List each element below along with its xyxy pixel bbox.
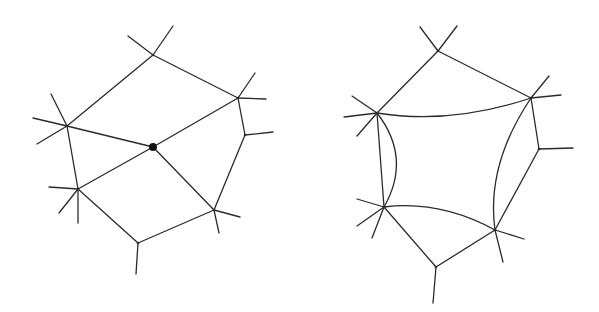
vertex-point <box>137 242 140 245</box>
half-edge-stub <box>344 113 377 117</box>
vertex-point <box>237 97 240 100</box>
half-edge-stub <box>59 189 78 213</box>
graph-edge <box>214 135 245 210</box>
vertex-point <box>376 112 379 115</box>
vertex-point <box>213 209 216 212</box>
vertex-point <box>77 188 80 191</box>
half-edge-stub <box>357 199 384 207</box>
half-edge-stub <box>433 267 436 303</box>
vertex-point <box>494 229 497 232</box>
graph-edge <box>377 113 384 207</box>
half-edge-stub <box>245 132 273 135</box>
vertex-point <box>66 125 69 128</box>
graph-edge <box>67 126 78 189</box>
half-edge-stub <box>153 26 173 55</box>
vertex-point <box>383 206 386 209</box>
graph-edge <box>438 51 531 98</box>
graph-edge <box>78 189 138 243</box>
graph-edge <box>238 98 245 135</box>
graph-edge <box>153 147 214 210</box>
graph-edge <box>436 230 495 267</box>
graph-edge <box>153 98 238 147</box>
graph-edge <box>531 98 539 149</box>
vertex-point <box>435 266 438 269</box>
half-edge-stub <box>438 26 457 51</box>
half-edge-stub <box>352 96 377 113</box>
half-edge-stub <box>214 210 240 217</box>
center-vertex-dot <box>149 143 157 151</box>
half-edge-stub <box>128 36 153 55</box>
vertex-point <box>437 50 440 53</box>
graph-edge <box>153 55 238 98</box>
half-edge-stub <box>420 27 438 51</box>
half-edge-stub <box>531 95 561 98</box>
vertex-point <box>530 97 533 100</box>
graph-edge <box>377 51 438 113</box>
right-graph <box>344 26 573 303</box>
graph-edge <box>384 207 436 267</box>
graph-edge <box>138 210 214 243</box>
diagram-canvas <box>0 0 599 312</box>
graph-edge <box>495 149 539 230</box>
curved-edge <box>494 98 532 230</box>
half-edge-stub <box>51 94 67 126</box>
half-edge-stub <box>136 243 138 274</box>
half-edge-stub <box>539 148 573 149</box>
half-edge-stub <box>37 126 67 144</box>
half-edge-stub <box>33 118 67 126</box>
half-edge-stub <box>238 73 255 98</box>
left-graph <box>33 26 273 274</box>
half-edge-stub <box>357 113 377 136</box>
graph-edge <box>67 126 153 147</box>
half-edge-stub <box>531 76 549 98</box>
graph-edge <box>67 55 153 126</box>
vertex-point <box>538 148 541 151</box>
vertex-point <box>152 54 155 57</box>
half-edge-stub <box>495 230 503 262</box>
half-edge-stub <box>49 187 78 189</box>
curved-edge <box>377 98 531 117</box>
half-edge-stub <box>495 230 524 239</box>
graph-edge <box>78 147 153 189</box>
vertex-point <box>244 134 247 137</box>
half-edge-stub <box>214 210 219 233</box>
half-edge-stub <box>238 98 266 99</box>
